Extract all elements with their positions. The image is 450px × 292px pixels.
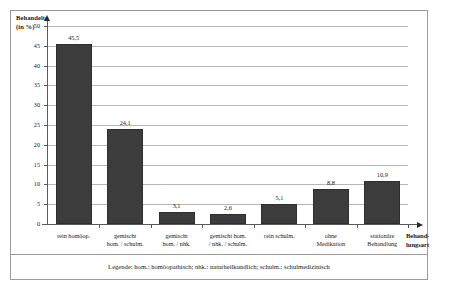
y-tick-mark (44, 145, 48, 146)
x-category-label: rein schulm. (254, 232, 305, 240)
y-tick-mark (44, 105, 48, 106)
bar (313, 189, 349, 224)
gridline (48, 125, 408, 126)
x-category-label: ohne Medikation (305, 232, 356, 248)
x-tick-mark (254, 224, 255, 228)
x-category-label: rein homöop. (48, 232, 99, 240)
y-tick-label: 35 (24, 82, 40, 88)
x-tick-mark (357, 224, 358, 228)
x-category-label: stationäre Behandlung (357, 232, 408, 248)
bar-value-label: 8,8 (311, 180, 351, 186)
x-axis-arrow-icon (417, 222, 423, 228)
x-tick-mark (202, 224, 203, 228)
y-tick-label: 10 (24, 181, 40, 187)
bar-value-label: 2,6 (208, 205, 248, 211)
bar (261, 204, 297, 224)
gridline (48, 145, 408, 146)
bar (364, 181, 400, 224)
bar-value-label: 10,9 (362, 172, 402, 178)
x-category-label: gemischt hom. / schulm. (99, 232, 150, 248)
y-tick-mark (44, 165, 48, 166)
gridline (48, 184, 408, 185)
y-tick-label: 15 (24, 162, 40, 168)
gridline (48, 165, 408, 166)
x-axis-title: Behand- lungsart (406, 232, 442, 249)
x-tick-mark (305, 224, 306, 228)
gridline (48, 26, 408, 27)
y-axis-arrow-icon (44, 15, 50, 21)
bar (56, 44, 92, 224)
y-tick-mark (44, 125, 48, 126)
y-tick-label: 5 (24, 201, 40, 207)
bar (107, 129, 143, 224)
y-tick-label: 45 (24, 43, 40, 49)
legend-divider (11, 254, 427, 255)
bar (159, 212, 195, 224)
y-tick-mark (44, 46, 48, 47)
y-tick-mark (44, 85, 48, 86)
y-tick-label: 50 (24, 23, 40, 29)
y-tick-mark (44, 26, 48, 27)
y-tick-label: 0 (24, 221, 40, 227)
gridline (48, 85, 408, 86)
x-category-label: gemischt hom. / nhk. / schulm. (202, 232, 253, 248)
y-axis-line (47, 20, 48, 225)
bar-value-label: 24,1 (105, 120, 145, 126)
legend-text: Legende: hom.: homöopathisch; nhk.: natu… (0, 262, 438, 271)
bar-value-label: 5,1 (259, 195, 299, 201)
y-tick-mark (44, 224, 48, 225)
bar-value-label: 45,5 (54, 35, 94, 41)
y-tick-label: 30 (24, 102, 40, 108)
x-axis-line (42, 224, 418, 225)
gridline (48, 105, 408, 106)
y-tick-label: 40 (24, 63, 40, 69)
bar-value-label: 3,1 (157, 203, 197, 209)
x-tick-mark (408, 224, 409, 228)
gridline (48, 66, 408, 67)
y-tick-mark (44, 204, 48, 205)
x-tick-mark (151, 224, 152, 228)
x-category-label: gemischt hom. / nhk. (151, 232, 202, 248)
y-tick-mark (44, 184, 48, 185)
y-tick-label: 20 (24, 142, 40, 148)
figure-container: Behandelte (in %) Behand- lungsart 05101… (0, 0, 450, 292)
bar (210, 214, 246, 224)
x-tick-mark (99, 224, 100, 228)
y-tick-mark (44, 66, 48, 67)
gridline (48, 46, 408, 47)
y-tick-label: 25 (24, 122, 40, 128)
